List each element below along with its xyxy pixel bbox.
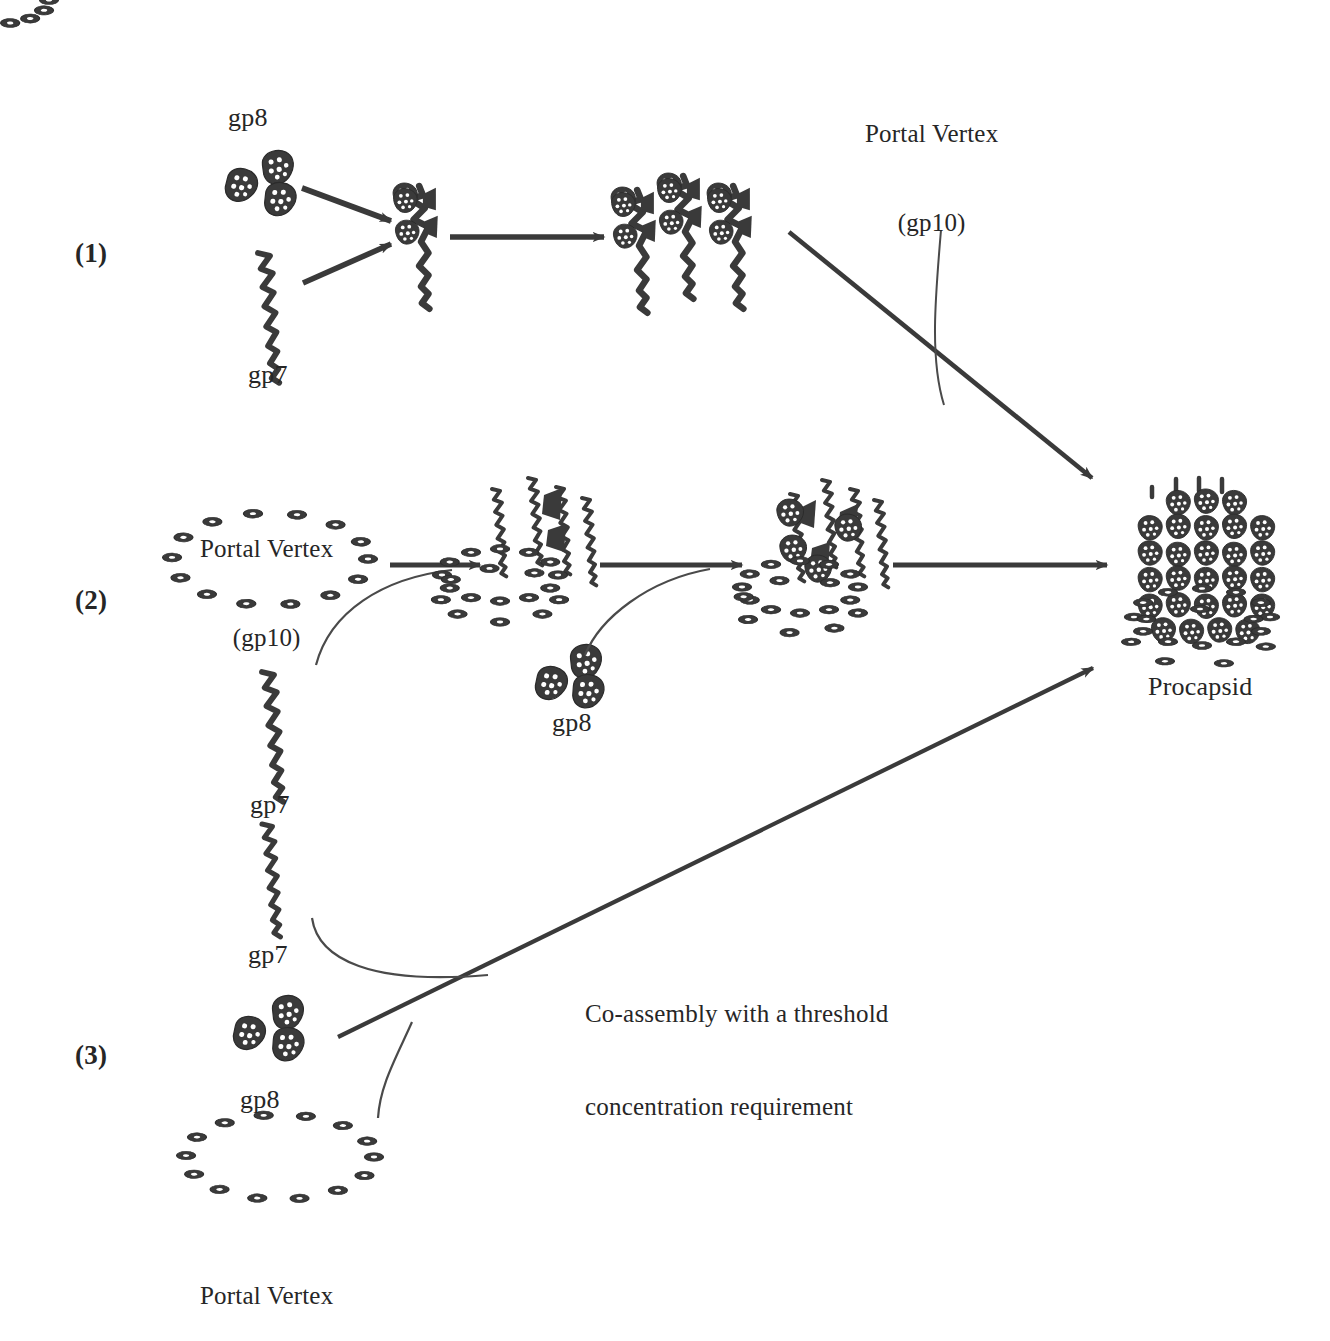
step-number-3: (3) xyxy=(75,1040,107,1072)
procapsid-label: Procapsid xyxy=(1148,672,1252,703)
step-number-1: (1) xyxy=(75,238,107,270)
gp7-label-row3: gp7 xyxy=(248,940,288,971)
gp7-gp8-multimer-row1 xyxy=(611,173,752,313)
gp8-label-row2: gp8 xyxy=(552,708,592,739)
portal-gp7-gp8-complex-row2 xyxy=(731,480,888,638)
gp7-label-row2: gp7 xyxy=(250,790,290,821)
portal-vertex-label-line1: Portal Vertex xyxy=(865,119,998,149)
co-assembly-note: Co-assembly with a threshold concentrati… xyxy=(585,935,888,1185)
gp7-label-row1: gp7 xyxy=(248,360,288,391)
portal-vertex-ring-row1 xyxy=(0,0,59,28)
gp8-label-row3: gp8 xyxy=(240,1085,280,1116)
portal-vertex-label-row3: Portal Vertex (gp10) xyxy=(200,1222,333,1341)
co-assembly-note-line1: Co-assembly with a threshold xyxy=(585,998,888,1029)
gp8-monomer-cluster-row2 xyxy=(533,643,605,709)
portal-vertex-ring-row3 xyxy=(176,1110,383,1203)
gp7-feeder-curve-row2 xyxy=(316,570,452,665)
step-number-2: (2) xyxy=(75,585,107,617)
gp7-feeder-curve-row3 xyxy=(312,918,488,977)
portal-gp7-complex-row2 xyxy=(430,478,596,626)
portal-vertex-label-row1: Portal Vertex (gp10) xyxy=(865,60,998,296)
procapsid-shell xyxy=(1120,478,1279,668)
gp8-monomer-cluster-row3 xyxy=(231,994,305,1062)
gp7-gp8-complex-row1 xyxy=(393,183,438,309)
gp8-feeder-curve-row2 xyxy=(585,569,710,655)
co-assembly-note-line2: concentration requirement xyxy=(585,1091,888,1122)
gp8-monomer-cluster-row1 xyxy=(223,148,298,217)
portal-vertex-label-line2: (gp10) xyxy=(865,208,998,238)
arrow-gp7-to-complex-row1 xyxy=(303,244,391,283)
assembly-diagram: (1) (2) (3) gp8 gp7 Portal Vertex (gp10)… xyxy=(0,0,1330,1341)
portal-feeder-curve-row3 xyxy=(378,1022,412,1118)
portal-vertex-label-line1: Portal Vertex xyxy=(200,534,333,564)
arrow-gp8-to-complex-row1 xyxy=(302,188,391,221)
gp8-label-row1: gp8 xyxy=(228,103,268,134)
portal-vertex-label-row2: Portal Vertex (gp10) xyxy=(200,475,333,711)
portal-vertex-label-line1: Portal Vertex xyxy=(200,1281,333,1311)
gp7-strand-row3 xyxy=(262,824,280,937)
portal-vertex-label-line2: (gp10) xyxy=(200,623,333,653)
